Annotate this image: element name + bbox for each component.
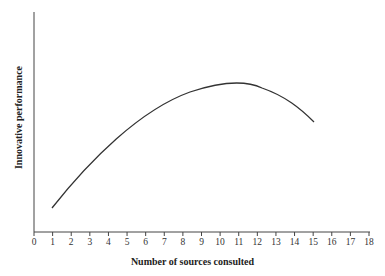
- x-tick-label: 0: [32, 237, 37, 247]
- x-tick-label: 5: [125, 237, 130, 247]
- x-tick-label: 3: [87, 237, 92, 247]
- x-tick-label: 4: [106, 237, 111, 247]
- x-tick-label: 15: [308, 237, 318, 247]
- x-tick-label: 13: [271, 237, 281, 247]
- chart-canvas: 0123456789101112131415161718: [0, 0, 385, 276]
- x-tick-label: 7: [162, 237, 167, 247]
- x-tick-label: 14: [290, 237, 300, 247]
- x-tick-label: 17: [346, 237, 356, 247]
- x-tick-label: 10: [215, 237, 225, 247]
- x-ticks: 0123456789101112131415161718: [32, 232, 374, 247]
- x-tick-label: 6: [143, 237, 148, 247]
- performance-curve: [52, 83, 314, 208]
- x-tick-label: 11: [234, 237, 243, 247]
- x-axis-label: Number of sources consulted: [0, 256, 385, 267]
- x-tick-label: 9: [199, 237, 204, 247]
- y-axis-label: Innovative performance: [13, 48, 24, 188]
- x-tick-label: 8: [181, 237, 186, 247]
- x-tick-label: 16: [327, 237, 337, 247]
- x-tick-label: 18: [364, 237, 374, 247]
- x-tick-label: 12: [253, 237, 263, 247]
- x-tick-label: 2: [69, 237, 74, 247]
- x-tick-label: 1: [50, 237, 55, 247]
